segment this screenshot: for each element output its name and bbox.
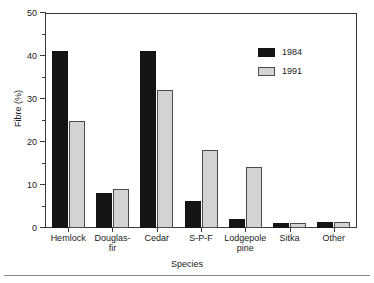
bar-1984 [317, 222, 333, 228]
bar-group [185, 14, 218, 228]
x-axis-tick [112, 228, 113, 232]
legend-swatch-1984 [258, 48, 275, 57]
y-axis-major-tick [40, 227, 46, 228]
x-axis-tick [157, 228, 158, 232]
bar-group [229, 14, 262, 228]
y-axis-major-tick [40, 98, 46, 99]
y-axis-minor-tick [42, 120, 46, 121]
bar-1991 [246, 167, 262, 228]
y-axis-minor-tick [42, 77, 46, 78]
bar-1991 [202, 150, 218, 228]
legend-swatch-1991 [258, 67, 275, 76]
x-axis-tick [290, 228, 291, 232]
bar-1991 [290, 223, 306, 228]
bar-1984 [185, 201, 201, 228]
bar-group [52, 14, 85, 228]
bar-1991 [334, 222, 350, 228]
plot-area [46, 14, 356, 228]
y-axis-tick-label: 20 [27, 138, 37, 147]
y-axis-minor-tick [42, 34, 46, 35]
y-axis-minor-tick [42, 206, 46, 207]
x-axis-category-label: Other [306, 233, 362, 243]
y-axis-tick-label: 30 [27, 95, 37, 104]
bar-1984 [273, 223, 289, 228]
y-axis-minor-tick [42, 163, 46, 164]
legend-label: 1991 [282, 67, 302, 76]
chart-legend: 19841991 [258, 45, 302, 83]
x-axis-tick [201, 228, 202, 232]
x-axis-title: Species [0, 259, 374, 269]
bar-1991 [69, 121, 85, 228]
y-axis-major-tick [40, 141, 46, 142]
y-axis-tick-label: 10 [27, 181, 37, 190]
legend-label: 1984 [282, 48, 302, 57]
x-axis-tick [68, 228, 69, 232]
figure: 01020304050 Fibre (%) Species 19841991 H… [0, 0, 374, 283]
bottom-divider [4, 275, 370, 276]
bar-group [317, 14, 350, 228]
bar-1984 [140, 51, 156, 228]
bar-1984 [52, 51, 68, 228]
bar-1984 [229, 219, 245, 228]
y-axis-tick-label: 0 [32, 224, 37, 233]
bar-1991 [157, 90, 173, 228]
legend-item-1984: 1984 [258, 45, 302, 59]
x-axis-tick [334, 228, 335, 232]
y-axis-major-tick [40, 55, 46, 56]
x-axis-tick [245, 228, 246, 232]
legend-item-1991: 1991 [258, 64, 302, 78]
bar-1991 [113, 189, 129, 228]
bar-1984 [96, 193, 112, 228]
y-axis-title: Fibre (%) [14, 69, 23, 149]
bar-group [96, 14, 129, 228]
bar-group [140, 14, 173, 228]
y-axis-major-tick [40, 12, 46, 13]
y-axis-tick-label: 40 [27, 52, 37, 61]
y-axis-tick-label: 50 [27, 9, 37, 18]
y-axis: 01020304050 [45, 13, 46, 228]
y-axis-major-tick [40, 184, 46, 185]
